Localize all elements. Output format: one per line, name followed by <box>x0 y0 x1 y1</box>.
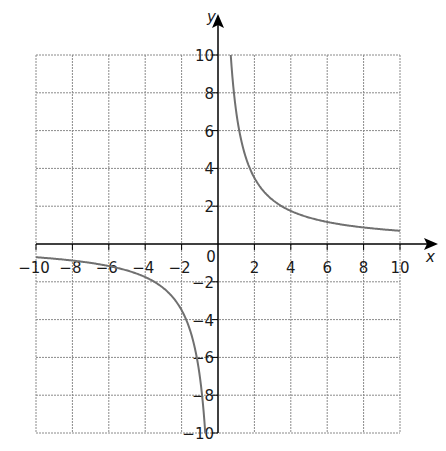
y-tick-label: 10 <box>195 47 214 65</box>
x-tick-label: −10 <box>18 259 50 277</box>
x-tick-label: −2 <box>169 259 191 277</box>
y-tick-label: 6 <box>204 123 214 141</box>
y-tick-label: 4 <box>204 160 214 178</box>
y-axis-label: y <box>206 8 217 26</box>
x-tick-label: 4 <box>286 259 296 277</box>
x-tick-label: 8 <box>359 259 369 277</box>
y-tick-label: −2 <box>192 274 214 292</box>
axes: x y <box>36 8 438 433</box>
x-tick-label: −4 <box>132 259 154 277</box>
x-tick-label: 10 <box>390 259 409 277</box>
hyperbola-chart: x y −10−8−6−4−20246810−10−8−6−4−2246810 <box>0 0 446 451</box>
curve-negative-branch <box>36 257 205 433</box>
x-tick-label: 2 <box>250 259 260 277</box>
tick-labels: −10−8−6−4−20246810−10−8−6−4−2246810 <box>18 47 409 443</box>
x-axis-label: x <box>425 248 435 266</box>
x-tick-label: 6 <box>322 259 332 277</box>
y-tick-label: 2 <box>204 198 214 216</box>
y-tick-label: −10 <box>182 425 214 443</box>
y-tick-label: −4 <box>192 312 214 330</box>
curve-positive-branch <box>231 55 400 231</box>
y-tick-label: 8 <box>204 85 214 103</box>
x-tick-label: 0 <box>206 248 216 266</box>
